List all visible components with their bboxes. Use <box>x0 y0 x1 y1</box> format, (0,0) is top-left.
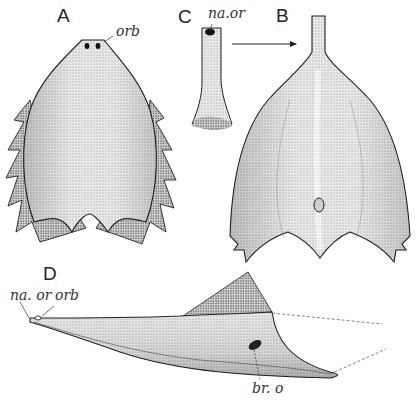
panel-letter-d: D <box>43 264 57 283</box>
panel-letter-c: C <box>178 7 192 26</box>
panel-letter-a: A <box>57 6 70 25</box>
figure-drawing <box>0 0 416 401</box>
panel-letter-b: B <box>276 6 289 25</box>
label-a-orbit: orb <box>116 24 140 38</box>
label-d-branchial-opening: br. o <box>252 381 283 395</box>
label-d-orbit: orb <box>55 288 79 302</box>
label-c-nasal-opening: na.or <box>208 6 245 20</box>
label-d-nasal-opening: na. or <box>10 288 51 302</box>
arrow-c-to-b <box>232 41 297 47</box>
panel-c-rostral-tube <box>192 24 232 130</box>
scientific-figure: A C B D orb na.or na. or orb br. o <box>0 0 416 401</box>
panel-a-shield <box>6 36 176 244</box>
panel-b-shield <box>230 16 410 262</box>
